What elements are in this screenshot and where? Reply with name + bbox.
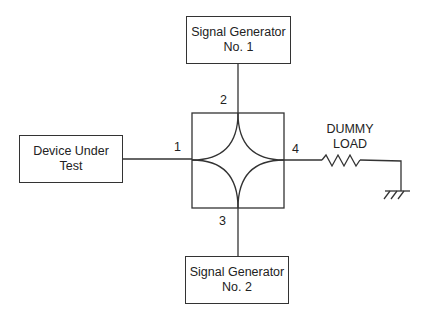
- dummy-load-line1: DUMMY: [326, 122, 374, 137]
- ground-hatch: [384, 191, 390, 199]
- signal-generator-1-box: Signal Generator No. 1: [186, 16, 291, 64]
- coupler-arc: [238, 113, 284, 160]
- sig-gen-1-line1: Signal Generator: [191, 25, 286, 40]
- signal-generator-2-box: Signal Generator No. 2: [185, 256, 289, 304]
- ground-hatch: [398, 191, 404, 199]
- sig-gen-1-line2: No. 1: [224, 40, 254, 55]
- wire-to-ground: [360, 160, 401, 191]
- device-under-test-box: Device Under Test: [19, 135, 123, 183]
- coupler-arc: [238, 160, 284, 208]
- dummy-load-line2: LOAD: [326, 137, 374, 152]
- ground-hatch: [391, 191, 397, 199]
- resistor-icon: [322, 155, 360, 166]
- dummy-load-label: DUMMY LOAD: [326, 122, 374, 152]
- port-1-label: 1: [174, 140, 181, 154]
- port-2-label: 2: [220, 93, 227, 107]
- port-4-label: 4: [292, 142, 299, 156]
- coupler-box: [192, 113, 284, 208]
- dut-line2: Test: [60, 159, 83, 174]
- coupler-arc: [192, 160, 238, 208]
- dut-line1: Device Under: [33, 144, 109, 159]
- sig-gen-2-line2: No. 2: [222, 280, 252, 295]
- port-3-label: 3: [219, 214, 226, 228]
- coupler-arc: [192, 113, 238, 160]
- sig-gen-2-line1: Signal Generator: [190, 265, 285, 280]
